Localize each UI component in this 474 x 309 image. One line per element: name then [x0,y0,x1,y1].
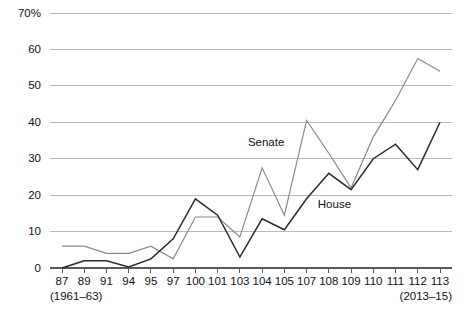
y-axis-tick-label: 60 [28,43,41,55]
x-axis-tick-label: 113 [431,275,449,287]
y-axis-tick-label: 0 [35,262,41,274]
series-annotation-house: House [318,198,351,210]
x-axis-tick-label: 107 [297,275,316,287]
x-axis-tick-label: 105 [275,275,294,287]
x-axis-tick-label: 109 [341,275,360,287]
y-axis-tick-label: 50 [28,79,41,91]
x-axis-tick-label: 94 [122,275,135,287]
x-axis-range-start-label: (1961–63) [50,290,103,302]
x-axis-tick-label: 108 [319,275,338,287]
y-axis-tick-label: 10 [28,225,41,237]
x-axis-tick-label: 91 [100,275,113,287]
x-axis-tick-label: 100 [186,275,205,287]
x-axis-tick-label: 89 [78,275,91,287]
x-axis-tick-label: 103 [230,275,249,287]
x-axis-tick-label: 87 [56,275,69,287]
x-axis-tick-label: 112 [409,275,427,287]
x-axis-tick-label: 111 [387,275,404,287]
x-axis-tick-label: 110 [364,275,382,287]
x-axis-tick-label: 97 [167,275,180,287]
chart-canvas: 010203040506070%878991949597100101103104… [0,0,474,309]
y-axis-tick-label: 30 [28,152,41,164]
x-axis-tick-label: 95 [145,275,158,287]
x-axis-tick-label: 101 [208,275,227,287]
line-chart: 010203040506070%878991949597100101103104… [0,0,474,309]
x-axis-tick-label: 104 [253,275,273,287]
y-axis-tick-label: 40 [28,116,41,128]
y-axis-tick-label: 20 [28,189,41,201]
series-annotation-senate: Senate [248,136,284,148]
y-axis-tick-label: 70% [18,7,41,19]
x-axis-range-end-label: (2013–15) [400,290,453,302]
